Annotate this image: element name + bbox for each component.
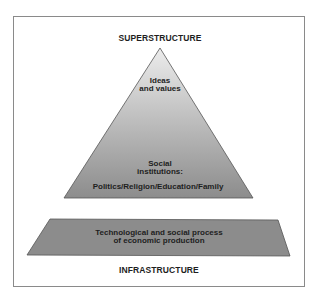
social-institutions-text: Social institutions: bbox=[100, 160, 220, 177]
base-line-2: of economic production bbox=[60, 237, 258, 245]
economic-production-text: Technological and social process of econ… bbox=[60, 229, 258, 246]
infrastructure-label: INFRASTRUCTURE bbox=[60, 266, 258, 275]
superstructure-label: SUPERSTRUCTURE bbox=[60, 34, 260, 43]
institutions-line: institutions: bbox=[100, 168, 220, 176]
values-line: and values bbox=[120, 85, 200, 93]
ideas-values-text: Ideas and values bbox=[120, 77, 200, 94]
institutions-list-text: Politics/Religion/Education/Family bbox=[60, 183, 256, 191]
diagram-shapes bbox=[0, 0, 317, 302]
